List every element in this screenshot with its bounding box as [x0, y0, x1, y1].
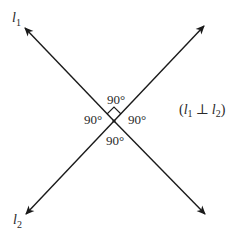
angle-right: 90° — [128, 112, 146, 127]
angle-top: 90° — [107, 92, 125, 107]
perpendicular-relation: (l1⊥l2) — [179, 102, 226, 119]
right-angle-marker — [107, 107, 121, 114]
label-l1: l1 — [12, 10, 21, 28]
intersection-point — [112, 119, 115, 122]
perpendicular-lines-diagram: l1 l2 90° 90° 90° 90° (l1⊥l2) — [0, 0, 238, 237]
angle-bottom: 90° — [106, 133, 124, 148]
label-l2: l2 — [13, 212, 22, 230]
angle-left: 90° — [84, 112, 102, 127]
